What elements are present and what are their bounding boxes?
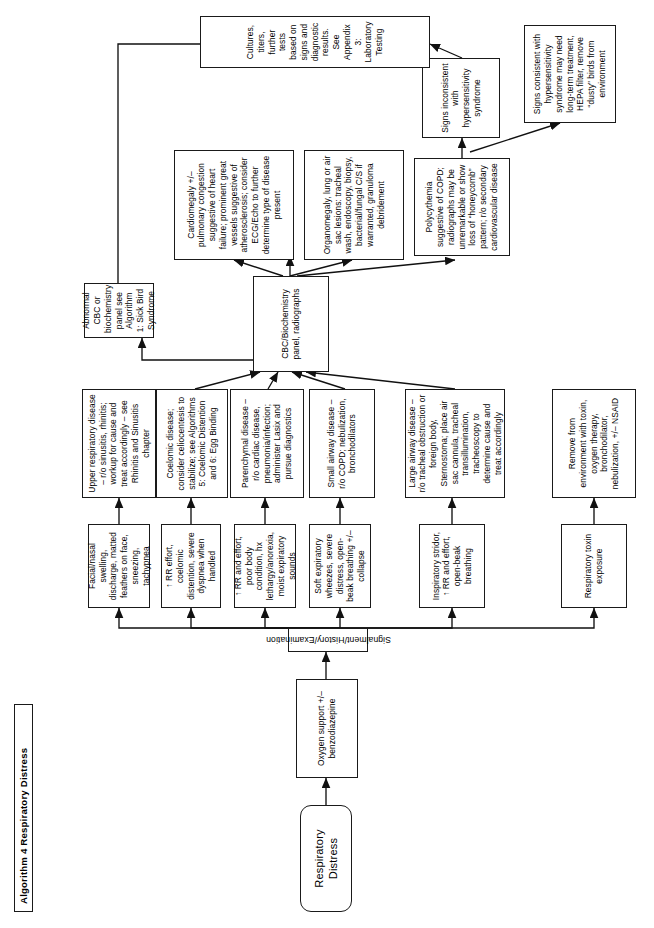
page-title: Algorithm 4 Respiratory Distress — [14, 704, 33, 912]
node-signs-inconsistent-label: Signs inconsistent with hypersensitivity… — [440, 63, 483, 133]
node-outcome-organomegaly: Organomegaly, lung or air sac lesions: t… — [304, 150, 404, 260]
node-final-testing: Cultures, titers, further tests based on… — [200, 16, 430, 68]
node-sign-coelomic: ↑ RR effort, coelomic distention, severe… — [161, 524, 221, 608]
node-outcome-sick-bird-label: Abnormal CBC or biochemistry panel see A… — [81, 288, 156, 333]
node-signs-consistent: Signs consistent with hypersensitivity s… — [524, 25, 616, 123]
node-start: Respiratory Distress — [300, 805, 352, 912]
node-sign-coelomic-label: ↑ RR effort, coelomic distention, severe… — [164, 529, 218, 603]
node-sign-parenchymal-label: ↑ RR and effort, poor body condition, hx… — [233, 529, 298, 603]
node-action-small-airway: Small airway disease – r/o COPD; nebuliz… — [309, 389, 375, 498]
node-signalment-label: Signalment/History/Examination — [266, 635, 391, 646]
node-action-upper-respiratory-label: Upper respiratory disease – r/o sinusiti… — [87, 394, 152, 493]
node-signs-inconsistent: Signs inconsistent with hypersensitivity… — [422, 58, 500, 138]
node-action-upper-airway-label: Large airway disease – r/o tracheal obst… — [407, 394, 504, 493]
node-sign-upper-respiratory-label: Facial/nasal swelling, discharge, matted… — [87, 529, 152, 603]
node-outcome-polycythemia: Polycythemia suggestive of COPD; radiogr… — [414, 158, 510, 256]
node-action-upper-airway: Large airway disease – r/o tracheal obst… — [405, 389, 505, 498]
node-action-coelomic: Coelomic disease; consider celiocentesis… — [156, 389, 228, 498]
node-outcome-organomegaly-label: Organomegaly, lung or air sac lesions: t… — [322, 155, 387, 255]
node-outcome-cardiomegaly: Cardiomegaly +/– pulmonary congestion su… — [174, 150, 294, 260]
node-oxygen-support: Oxygen support +/– benzodiazepine — [296, 679, 358, 778]
node-diagnostic-hub: CBC/Biochemistry panel, radiographs — [253, 276, 329, 372]
node-diagnostic-hub-label: CBC/Biochemistry panel, radiographs — [280, 281, 302, 367]
flowchart-canvas: Algorithm 4 Respiratory Distress Respira… — [0, 0, 654, 928]
node-action-parenchymal: Parenchymal disease – r/o cardiac diseas… — [230, 389, 304, 498]
node-signs-consistent-label: Signs consistent with hypersensitivity s… — [532, 30, 607, 118]
node-action-parenchymal-label: Parenchymal disease – r/o cardiac diseas… — [240, 394, 294, 493]
node-outcome-polycythemia-label: Polycythemia suggestive of COPD; radiogr… — [424, 163, 499, 251]
node-start-label: Respiratory Distress — [312, 810, 340, 907]
node-oxygen-support-label: Oxygen support +/– benzodiazepine — [316, 684, 338, 773]
node-action-coelomic-label: Coelomic disease; consider celiocentesis… — [165, 394, 219, 493]
node-sign-small-airway: Soft expiratory wheezes, severe distress… — [309, 524, 371, 608]
node-sign-toxin: Respiratory toxin exposure — [561, 524, 627, 608]
node-sign-parenchymal: ↑ RR and effort, poor body condition, hx… — [234, 524, 296, 608]
node-sign-upper-respiratory: Facial/nasal swelling, discharge, matted… — [88, 524, 150, 608]
node-signalment: Signalment/History/Examination — [288, 628, 368, 652]
node-sign-toxin-label: Respiratory toxin exposure — [583, 529, 605, 603]
node-action-small-airway-label: Small airway disease – r/o COPD; nebuliz… — [326, 394, 358, 493]
node-action-upper-respiratory: Upper respiratory disease – r/o sinusiti… — [82, 389, 156, 498]
node-outcome-cardiomegaly-label: Cardiomegaly +/– pulmonary congestion su… — [186, 155, 283, 255]
node-final-testing-label: Cultures, titers, further tests based on… — [245, 21, 385, 63]
node-sign-small-airway-label: Soft expiratory wheezes, severe distress… — [313, 529, 367, 603]
node-sign-upper-airway-label: Inspiratory stridor, ↑ RR and effort, op… — [431, 529, 474, 603]
node-action-toxin: Remove from environment with toxin, oxyg… — [552, 389, 636, 498]
node-action-toxin-label: Remove from environment with toxin, oxyg… — [567, 394, 621, 493]
node-sign-upper-airway: Inspiratory stridor, ↑ RR and effort, op… — [419, 524, 485, 608]
node-outcome-sick-bird: Abnormal CBC or biochemistry panel see A… — [84, 283, 154, 338]
